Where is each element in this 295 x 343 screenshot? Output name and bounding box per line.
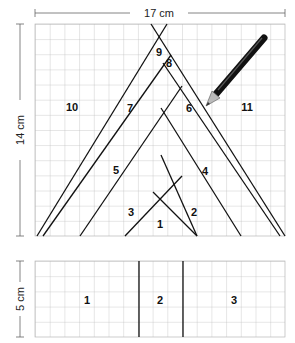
region-label-7: 7 [127,102,133,114]
bottom-height-dimension: 5 cm [14,261,26,337]
bottom-region-label-2: 2 [157,294,163,306]
region-label-2: 2 [191,206,197,218]
diagram-canvas: 17 cm 14 cm 1 2 3 4 5 6 7 8 9 10 [0,0,295,343]
bottom-region-label-1: 1 [84,294,90,306]
bottom-region-label-3: 3 [231,294,237,306]
width-dimension: 17 cm [35,7,285,19]
region-label-9: 9 [156,46,162,58]
height-label: 14 cm [14,115,26,145]
region-label-5: 5 [113,164,119,176]
region-label-11: 11 [241,101,253,113]
region-label-8: 8 [166,57,172,69]
width-label: 17 cm [144,7,174,19]
region-label-3: 3 [128,206,134,218]
region-label-6: 6 [186,102,192,114]
region-label-1: 1 [157,218,163,230]
region-label-4: 4 [202,165,209,177]
region-label-10: 10 [66,101,78,113]
bottom-height-label: 5 cm [14,287,26,311]
height-dimension: 14 cm [14,24,26,236]
